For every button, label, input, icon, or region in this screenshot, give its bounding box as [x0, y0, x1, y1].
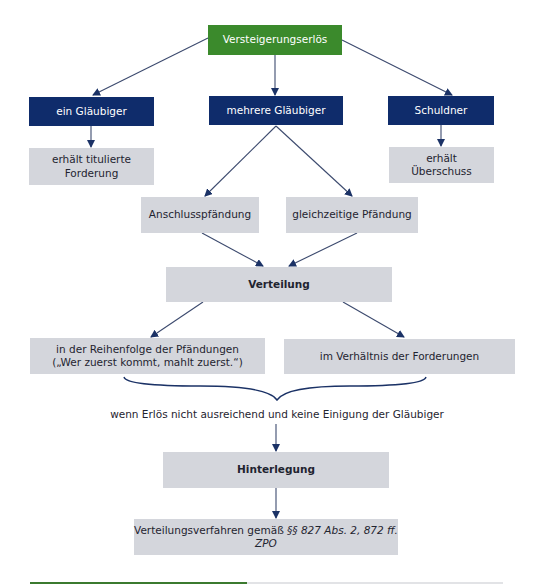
- node-gleichzeitige-pfaendung: gleichzeitige Pfändung: [286, 197, 418, 233]
- root-node-versteigerungserloes: Versteigerungserlös: [208, 25, 342, 55]
- node-verteilungsverfahren: Verteilungsverfahren gemäß §§ 827 Abs. 2…: [134, 519, 398, 555]
- final-text: Verteilungsverfahren gemäß §§ 827 Abs. 2…: [134, 524, 398, 550]
- node-verteilung: Verteilung: [166, 267, 392, 302]
- node-anschlusspfaendung: Anschlusspfändung: [141, 197, 259, 233]
- root-node-label: Versteigerungserlös: [223, 33, 328, 46]
- branch-label: ein Gläubiger: [56, 105, 127, 118]
- branch-label: mehrere Gläubiger: [227, 104, 326, 117]
- footer-rule-grey: [247, 582, 503, 584]
- option-line: im Verhältnis der Forderungen: [320, 350, 479, 363]
- result-titulierte-forderung: erhält titulierte Forderung: [29, 148, 154, 185]
- option-verhaeltnis: im Verhältnis der Forderungen: [284, 339, 515, 374]
- branch-mehrere-glaeubiger: mehrere Gläubiger: [209, 96, 343, 125]
- result-ueberschuss: erhält Überschuss: [389, 147, 494, 183]
- result-line: erhält titulierte: [52, 153, 131, 166]
- option-line: („Wer zuerst kommt, mahlt zuerst.“): [52, 356, 242, 369]
- result-line: Forderung: [65, 167, 119, 180]
- result-line: Überschuss: [411, 165, 472, 178]
- result-line: erhält: [426, 152, 457, 165]
- curly-brace: [124, 377, 426, 400]
- condition-text: wenn Erlös nicht ausreichend und keine E…: [80, 408, 474, 420]
- option-line: in der Reihenfolge der Pfändungen: [56, 343, 239, 356]
- node-label: Verteilung: [248, 278, 310, 291]
- branch-label: Schuldner: [415, 104, 468, 117]
- node-label: Anschlusspfändung: [149, 208, 251, 221]
- final-prefix: Verteilungsverfahren gemäß: [134, 524, 287, 536]
- branch-ein-glaeubiger: ein Gläubiger: [29, 97, 154, 126]
- node-label: gleichzeitige Pfändung: [292, 208, 412, 221]
- node-label: Hinterlegung: [237, 463, 315, 476]
- option-reihenfolge: in der Reihenfolge der Pfändungen („Wer …: [30, 338, 265, 374]
- branch-schuldner: Schuldner: [388, 96, 494, 125]
- footer-rule-green: [30, 582, 247, 584]
- node-hinterlegung: Hinterlegung: [163, 452, 389, 488]
